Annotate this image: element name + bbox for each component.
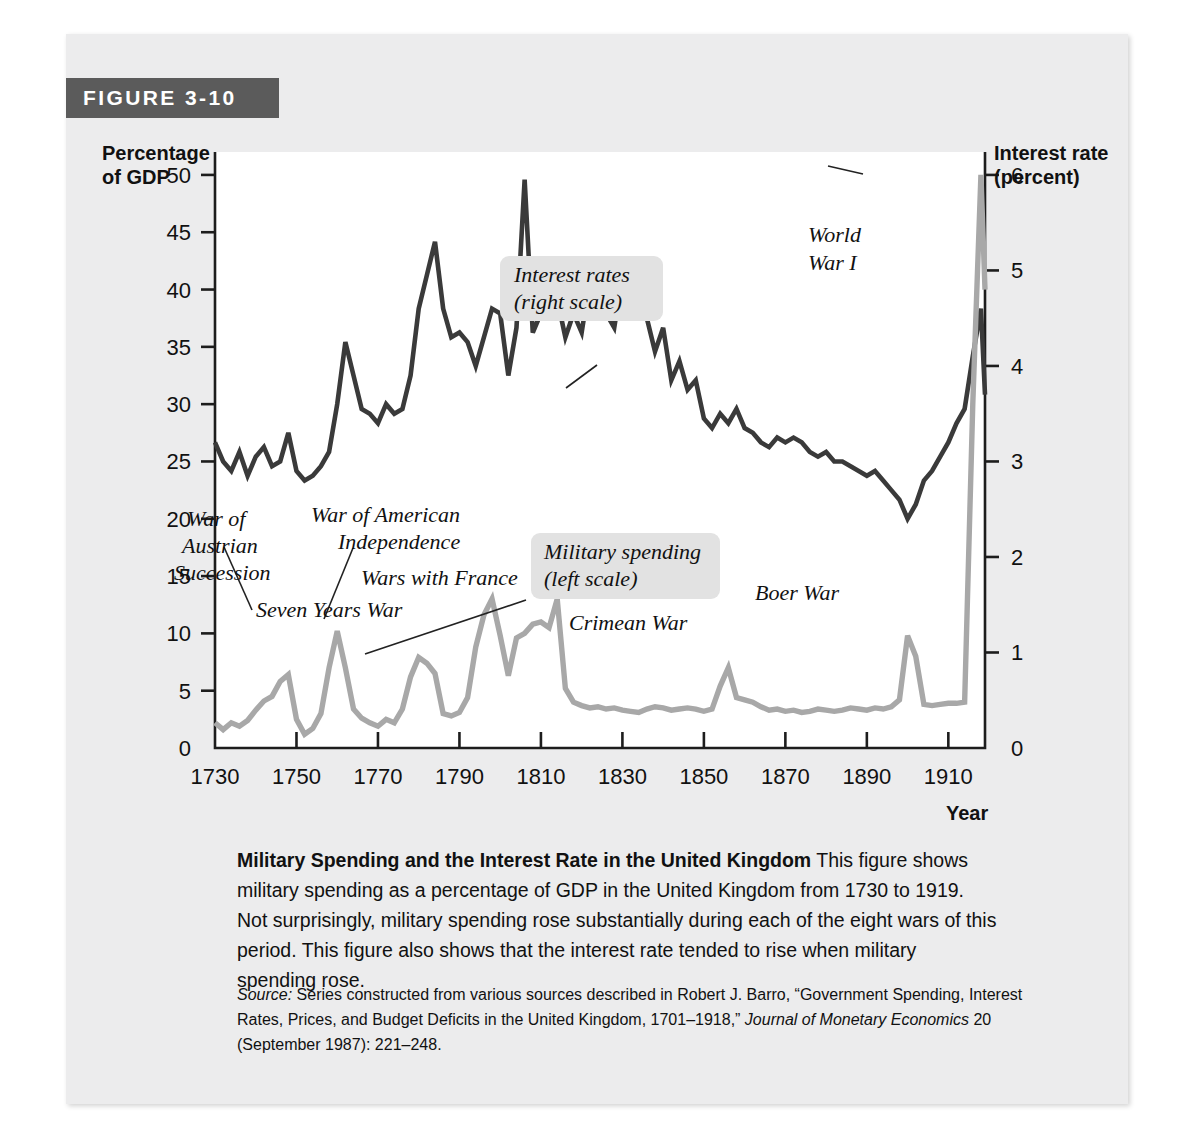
x-tick-1790: 1790 [435, 764, 484, 789]
x-tick-1750: 1750 [272, 764, 321, 789]
left-tick-25: 25 [167, 449, 191, 474]
annotation-boer-war: Boer War [755, 580, 840, 605]
figure-number-label: FIGURE 3-10 [66, 86, 237, 110]
annotation-war-american-independence-line2: Independence [337, 529, 460, 554]
chart-svg: 05101520253035404550 0123456 17301750177… [66, 130, 1128, 830]
left-tick-5: 5 [179, 679, 191, 704]
caption-bold-title: Military Spending and the Interest Rate … [237, 849, 811, 871]
right-tick-4: 4 [1011, 354, 1023, 379]
chart-plot-area: 05101520253035404550 0123456 17301750177… [66, 130, 1128, 830]
left-tick-30: 30 [167, 392, 191, 417]
legend-interest-rates-line1: Interest rates [513, 262, 630, 287]
right-tick-3: 3 [1011, 449, 1023, 474]
figure-source: Source: Series constructed from various … [237, 982, 1027, 1057]
figure-banner: FIGURE 3-10 [66, 78, 279, 118]
left-tick-45: 45 [167, 220, 191, 245]
annotation-wars-with-france: Wars with France [361, 565, 518, 590]
x-tick-1910: 1910 [924, 764, 973, 789]
x-tick-1770: 1770 [353, 764, 402, 789]
x-tick-1890: 1890 [842, 764, 891, 789]
x-tick-1730: 1730 [191, 764, 240, 789]
right-axis-ticks: 0123456 [985, 163, 1023, 761]
right-axis-title-line2: (percent) [994, 166, 1080, 188]
x-axis-title: Year [946, 802, 988, 824]
annotation-war-austrian-succession-line1: War of [187, 506, 248, 531]
legend-interest-rates-line2: (right scale) [514, 289, 622, 314]
x-tick-1870: 1870 [761, 764, 810, 789]
x-tick-1850: 1850 [679, 764, 728, 789]
right-tick-0: 0 [1011, 736, 1023, 761]
left-axis-title-line2: of GDP [102, 166, 170, 188]
annotation-war-american-independence-line1: War of American [311, 502, 460, 527]
right-tick-2: 2 [1011, 545, 1023, 570]
right-axis-title-line1: Interest rate [994, 142, 1109, 164]
source-label: Source: [237, 986, 292, 1003]
left-tick-40: 40 [167, 278, 191, 303]
annotation-world-war-i-line2: War I [808, 250, 858, 275]
figure-caption: Military Spending and the Interest Rate … [237, 845, 997, 995]
x-tick-1810: 1810 [516, 764, 565, 789]
annotation-war-austrian-succession-line2: Austrian [180, 533, 258, 558]
left-axis-ticks: 05101520253035404550 [167, 163, 215, 761]
source-journal-name: Journal of Monetary Economics [745, 1011, 969, 1028]
left-tick-10: 10 [167, 621, 191, 646]
annotation-crimean-war: Crimean War [569, 610, 688, 635]
left-tick-50: 50 [167, 163, 191, 188]
left-tick-0: 0 [179, 736, 191, 761]
left-axis-title-line1: Percentage [102, 142, 210, 164]
left-tick-35: 35 [167, 335, 191, 360]
right-tick-5: 5 [1011, 258, 1023, 283]
x-tick-1830: 1830 [598, 764, 647, 789]
annotation-war-austrian-succession-line3: Succession [174, 560, 271, 585]
annotation-world-war-i-line1: World [808, 222, 862, 247]
figure-page: FIGURE 3-10 05101520253035404550 0123456… [0, 0, 1198, 1141]
annotation-seven-years-war: Seven Years War [256, 597, 403, 622]
legend-military-spending-line1: Military spending [543, 539, 701, 564]
legend-military-spending-line2: (left scale) [544, 566, 637, 591]
right-tick-1: 1 [1011, 640, 1023, 665]
